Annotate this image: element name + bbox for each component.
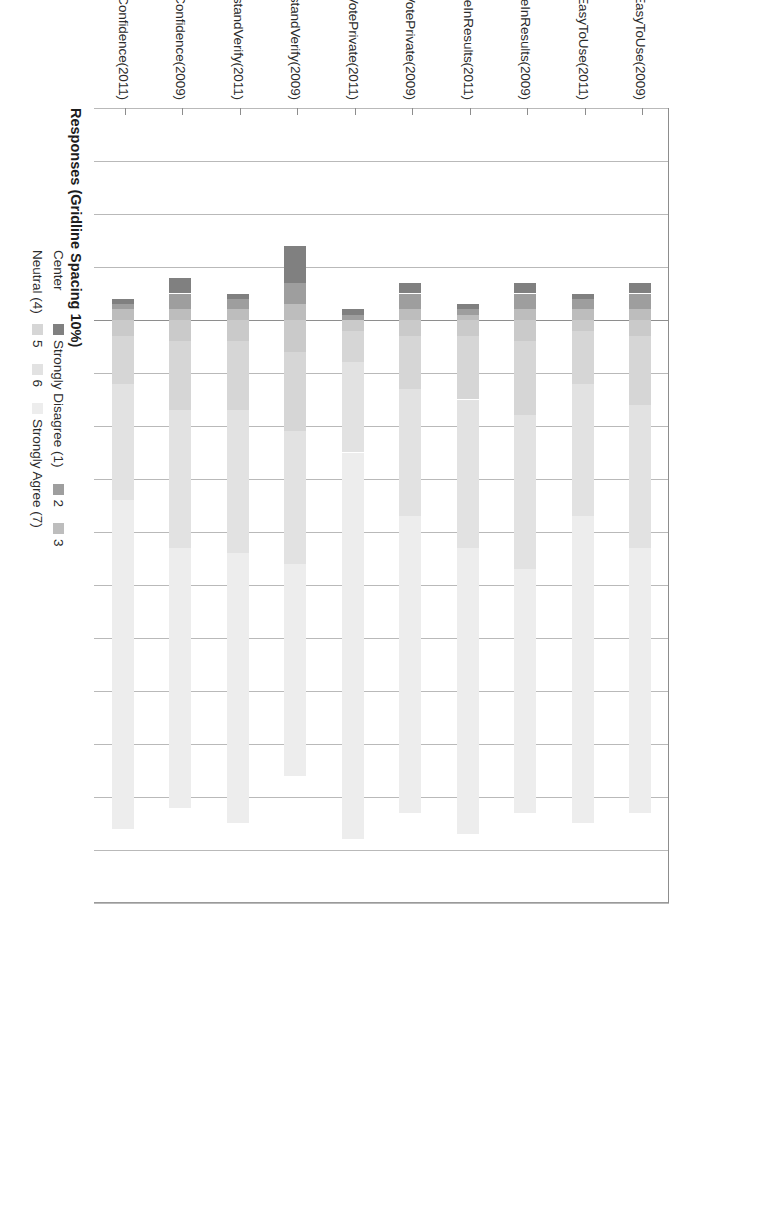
legend-swatch-icon	[53, 523, 64, 534]
bar-VerifIncreasesConfidence(2009)	[169, 108, 191, 903]
bar-segment-5	[227, 341, 249, 410]
bar-segment-7	[284, 564, 306, 776]
legend-swatch-icon	[32, 324, 43, 335]
bar-segment-4	[629, 320, 651, 336]
category-label-EasyToUse(2011): EasyToUse(2011)	[575, 0, 590, 100]
legend-item-neg-2: 3	[51, 523, 66, 547]
legend-label: 6	[30, 380, 45, 388]
bar-segment-4	[572, 320, 594, 331]
bar-segment-3	[112, 309, 134, 320]
bar-segment-6	[572, 384, 594, 517]
bar-segment-5	[284, 352, 306, 432]
bar-segment-6	[227, 410, 249, 553]
legend-swatch-icon	[32, 364, 43, 375]
bar-segment-2	[572, 299, 594, 310]
category-tick	[240, 108, 241, 115]
bar-segment-6	[342, 362, 364, 452]
category-label-VerifIncreasesConfidence(2009): VerifIncreasesConfidence(2009)	[173, 0, 188, 100]
bar-segment-6	[112, 384, 134, 501]
bar-segment-1	[399, 283, 421, 294]
bar-segment-7	[572, 516, 594, 823]
bar-segment-3	[629, 309, 651, 320]
legend-items-negative: Strongly Disagree (1)23	[51, 324, 66, 563]
bar-segment-2	[169, 294, 191, 310]
category-tick	[355, 108, 356, 115]
legend-label: Strongly Agree (7)	[30, 419, 45, 528]
bar-segment-4	[227, 320, 249, 341]
bar-segment-5	[629, 336, 651, 405]
bar-segment-4	[399, 320, 421, 336]
category-tick	[125, 108, 126, 115]
bar-VerifIncreasesConfidence(2011)	[112, 108, 134, 903]
bar-segment-3	[169, 309, 191, 320]
bar-EasyToUse(2009)	[629, 108, 651, 903]
category-label-ConfidenceInResults(2011): ConfidenceInResults(2011)	[460, 0, 475, 100]
legend-item-pos-1: 6	[30, 364, 45, 388]
bar-segment-7	[457, 548, 479, 834]
legend-label: 5	[30, 340, 45, 348]
bar-ConfidenceVotePrivate(2011)	[342, 108, 364, 903]
legend-swatch-icon	[53, 484, 64, 495]
bar-segment-3	[572, 309, 594, 320]
category-tick	[585, 108, 586, 115]
bar-segment-6	[514, 415, 536, 569]
bar-segment-5	[342, 331, 364, 363]
category-tick	[642, 108, 643, 115]
bar-segment-5	[514, 341, 536, 415]
bar-segment-4	[169, 320, 191, 341]
bar-segment-7	[227, 553, 249, 823]
gridline	[94, 903, 669, 904]
category-label-UnderstandVerify(2009): UnderstandVerify(2009)	[288, 0, 303, 100]
legend-row-1: Center Strongly Disagree (1)23	[48, 250, 69, 890]
legend-item-pos-2: Strongly Agree (7)	[30, 403, 45, 528]
bar-segment-3	[514, 309, 536, 320]
legend-label: Strongly Disagree (1)	[51, 340, 66, 468]
category-axis	[668, 108, 669, 903]
legend-item-pos-0: 5	[30, 324, 45, 348]
bar-segment-3	[227, 309, 249, 320]
bar-ConfidenceVotePrivate(2009)	[399, 108, 421, 903]
bar-segment-5	[572, 331, 594, 384]
bar-segment-4	[342, 320, 364, 331]
bar-segment-7	[169, 548, 191, 808]
legend-label: 2	[51, 500, 66, 508]
bar-segment-5	[169, 341, 191, 410]
legend-items-positive: 56Strongly Agree (7)	[30, 324, 45, 544]
category-labels: EasyToUse(2009)EasyToUse(2011)Confidence…	[94, 0, 669, 100]
category-label-EasyToUse(2009): EasyToUse(2009)	[633, 0, 648, 100]
bar-UnderstandVerify(2011)	[227, 108, 249, 903]
bar-segment-5	[112, 336, 134, 384]
bar-segment-6	[629, 405, 651, 548]
category-label-ConfidenceVotePrivate(2011): ConfidenceVotePrivate(2011)	[345, 0, 360, 100]
bar-segment-6	[457, 400, 479, 548]
bar-segment-1	[169, 278, 191, 294]
bar-segment-3	[399, 309, 421, 320]
category-tick	[412, 108, 413, 115]
bar-EasyToUse(2011)	[572, 108, 594, 903]
bar-segment-2	[399, 294, 421, 310]
category-label-ConfidenceInResults(2009): ConfidenceInResults(2009)	[518, 0, 533, 100]
bar-segment-2	[227, 299, 249, 310]
bar-segment-6	[169, 410, 191, 548]
category-label-ConfidenceVotePrivate(2009): ConfidenceVotePrivate(2009)	[403, 0, 418, 100]
bar-UnderstandVerify(2009)	[284, 108, 306, 903]
bar-segment-1	[514, 283, 536, 294]
legend-swatch-icon	[32, 403, 43, 414]
bar-segment-4	[112, 320, 134, 336]
bar-segment-2	[514, 294, 536, 310]
bar-segment-1	[284, 246, 306, 283]
legend-row-2: Neutral (4) 56Strongly Agree (7)	[27, 250, 48, 890]
legend-item-neg-0: Strongly Disagree (1)	[51, 324, 66, 468]
bar-segment-7	[514, 569, 536, 813]
category-tick	[527, 108, 528, 115]
plot-area	[94, 108, 669, 903]
bar-segment-4	[457, 320, 479, 336]
bar-segment-7	[342, 453, 364, 840]
legend-center-label: Center	[51, 250, 66, 324]
bar-segment-7	[399, 516, 421, 813]
category-label-VerifIncreasesConfidence(2011): VerifIncreasesConfidence(2011)	[115, 0, 130, 100]
bar-ConfidenceInResults(2009)	[514, 108, 536, 903]
legend-item-neg-1: 2	[51, 484, 66, 508]
category-tick	[470, 108, 471, 115]
bar-segment-4	[284, 320, 306, 352]
